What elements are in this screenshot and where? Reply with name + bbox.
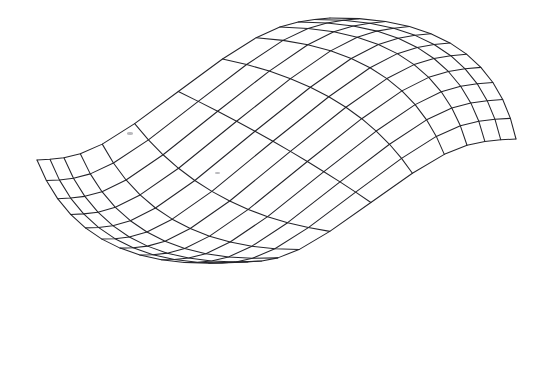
mesh-line-v-11 (235, 139, 516, 262)
mesh-line-u-11 (314, 20, 500, 140)
mesh-line-u-6 (178, 92, 371, 203)
mesh-line-u-4 (102, 144, 299, 249)
mesh-line-u-2 (64, 158, 262, 262)
figure-root (0, 0, 538, 375)
mesh-line-v-7 (140, 67, 481, 255)
wireframe-surface-plot (0, 0, 538, 375)
mesh-line-u-8 (256, 38, 444, 155)
mesh-v-lines (37, 18, 516, 263)
mesh-line-u-12 (330, 18, 516, 139)
mesh-line-v-9 (184, 100, 502, 263)
mesh-line-u-5 (135, 124, 330, 232)
